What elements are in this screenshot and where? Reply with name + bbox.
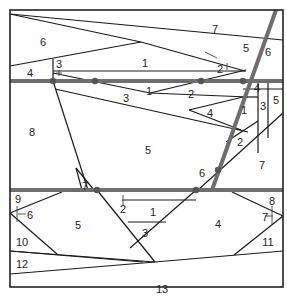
region-label: 12: [16, 258, 28, 270]
region-label: 13: [156, 283, 168, 295]
region-label: 3: [260, 100, 266, 112]
intersection-dot: [198, 78, 204, 84]
region-label: 7: [262, 211, 268, 223]
intersection-dot: [92, 78, 98, 84]
region-label: 11: [262, 236, 273, 248]
region-label: 5: [75, 219, 81, 231]
region-label: 5: [145, 144, 151, 156]
region-label: 2: [120, 203, 126, 215]
region-label: 7: [259, 159, 265, 171]
boundary-line: [97, 190, 155, 262]
boundary-line: [155, 251, 283, 262]
boundary-line: [234, 216, 283, 255]
region-label: 7: [212, 23, 218, 35]
tick-marks: [17, 52, 273, 224]
boundary-line: [10, 14, 141, 42]
region-label: 6: [199, 167, 205, 179]
region-label: 4: [27, 67, 33, 79]
region-label: 2: [217, 63, 223, 75]
boundary-line: [189, 97, 243, 110]
diagram-svg: 675612341234413585276796521348710111213: [0, 0, 287, 304]
region-label: 6: [40, 36, 46, 48]
region-label: 4: [207, 107, 213, 119]
intersection-dot: [193, 187, 199, 193]
region-label: 5: [273, 94, 279, 106]
intersection-dot: [94, 187, 100, 193]
region-label: 4: [215, 218, 221, 230]
region-label: 6: [27, 209, 33, 221]
boundary-line: [10, 262, 155, 274]
region-label: 5: [243, 42, 249, 54]
region-label: 3: [123, 92, 129, 104]
region-label: 1: [241, 104, 247, 116]
boundary-line: [150, 93, 248, 97]
region-label: 9: [15, 193, 21, 205]
thick-line-diagonal: [212, 10, 276, 190]
boundary-line: [130, 190, 196, 248]
region-label: 3: [56, 58, 62, 70]
region-label: 8: [29, 126, 35, 138]
boundary-line: [232, 192, 283, 216]
boundary-line: [53, 81, 88, 190]
region-label: 2: [237, 136, 243, 148]
boundary-line: [10, 251, 143, 262]
tick-mark: [205, 52, 217, 58]
boundary-line: [10, 42, 141, 66]
intersection-dot: [50, 78, 56, 84]
region-label: 1: [146, 85, 152, 97]
region-label: 8: [269, 195, 275, 207]
region-diagram: 675612341234413585276796521348710111213: [0, 0, 287, 304]
intersection-dot: [215, 167, 221, 173]
region-label: 1: [142, 57, 148, 69]
boundary-line: [198, 113, 283, 190]
region-label: 2: [188, 88, 194, 100]
boundary-line: [10, 14, 283, 40]
region-label: 1: [150, 206, 156, 218]
region-label: 3: [142, 227, 148, 239]
region-label: 10: [16, 236, 28, 248]
thick-lines: [10, 10, 283, 190]
region-label: 6: [265, 46, 271, 58]
region-label: 7: [82, 180, 88, 192]
intersection-dot: [240, 78, 246, 84]
region-label: 4: [254, 82, 260, 94]
boundary-line: [141, 42, 245, 71]
